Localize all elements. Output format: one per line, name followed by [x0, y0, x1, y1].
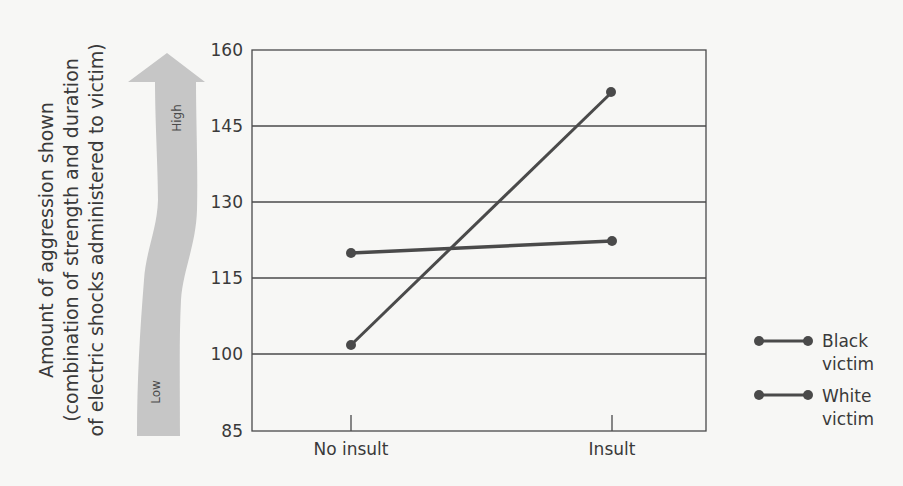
aggression-arrow-icon: High Low: [128, 53, 205, 436]
data-point-white-no-insult: [346, 248, 356, 258]
data-point-black-insult: [606, 87, 616, 97]
y-axis-label-line-3: of electric shocks administered to victi…: [85, 43, 107, 436]
series-white-victim: [346, 236, 617, 258]
legend-marker-white: [754, 390, 764, 400]
legend-item-white-victim: White victim: [754, 386, 874, 429]
y-tick-100: 100: [211, 344, 243, 364]
y-tick-85: 85: [221, 421, 243, 441]
y-tick-labels: 160 145 130 115 100 85: [211, 40, 243, 441]
data-point-black-no-insult: [346, 340, 356, 350]
y-axis-label: Amount of aggression shown (combination …: [35, 43, 107, 436]
chart: Amount of aggression shown (combination …: [0, 0, 903, 486]
legend-marker-black: [754, 336, 764, 346]
legend-item-black-victim: Black victim: [754, 331, 874, 374]
y-axis-label-line-2: (combination of strength and duration: [60, 58, 82, 422]
legend-label-black-line2: victim: [822, 354, 874, 374]
y-tick-115: 115: [211, 268, 243, 288]
plot-area: [252, 50, 706, 431]
y-tick-145: 145: [211, 116, 243, 136]
legend-label-white-line2: victim: [822, 409, 874, 429]
legend: Black victim White victim: [754, 331, 874, 429]
x-label-insult: Insult: [589, 439, 636, 459]
legend-marker-black-end: [803, 336, 813, 346]
arrow-low-label: Low: [149, 380, 163, 404]
y-axis-label-line-1: Amount of aggression shown: [35, 102, 57, 378]
legend-marker-white-end: [803, 390, 813, 400]
plot-frame: [252, 50, 706, 431]
legend-label-white-line1: White: [822, 386, 871, 406]
y-tick-130: 130: [211, 192, 243, 212]
arrow-high-label: High: [170, 104, 184, 132]
x-label-no-insult: No insult: [313, 439, 388, 459]
data-point-white-insult: [607, 236, 617, 246]
y-tick-160: 160: [211, 40, 243, 60]
legend-label-black-line1: Black: [822, 331, 868, 351]
